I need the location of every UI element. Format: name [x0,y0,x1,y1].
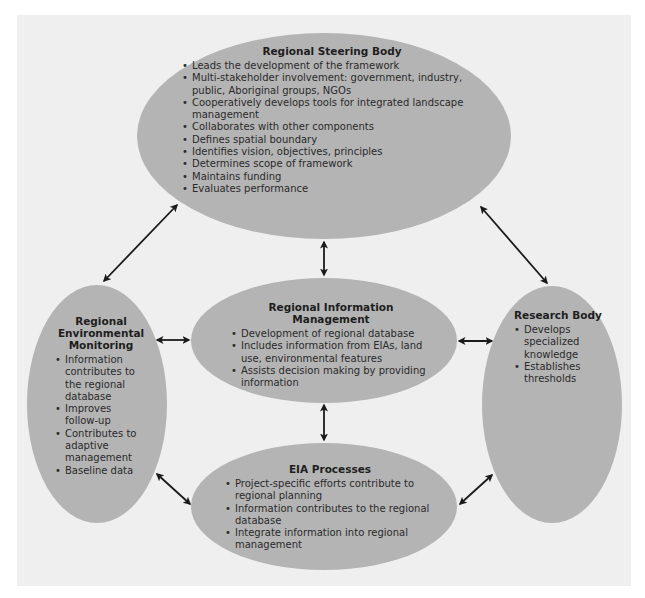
node-bullet-list: Project-specific efforts contribute to r… [225,478,435,552]
regional-steering-body-node: Regional Steering Body Leads the develop… [137,33,511,239]
bullet-item: Maintains funding [182,171,482,183]
bullet-item: Information contributes to the regional … [225,503,435,528]
research-body-node: Research Body Develops specialized knowl… [482,286,622,523]
regional-information-management-node: Regional Information Management Developm… [191,278,457,403]
bullet-item: Cooperatively develops tools for integra… [182,97,482,122]
bullet-item: Determines scope of framework [182,158,482,170]
node-title: Regional Steering Body [182,45,482,57]
bullet-item: Baseline data [55,465,147,477]
bullet-item: Identifies vision, objectives, principle… [182,146,482,158]
bullet-item: Assists decision making by providing inf… [231,365,431,390]
bullet-item: Integrate information into regional mana… [225,527,435,552]
bullet-item: Contributes to adaptive management [55,428,147,465]
bullet-item: Improves follow-up [55,403,147,428]
node-bullet-list: Development of regional database Include… [231,328,431,389]
regional-environmental-monitoring-node: Regional Environmental Monitoring Inform… [27,285,167,523]
node-bullet-list: Leads the development of the framework M… [182,60,482,195]
bullet-item: Information contributes to the regional … [55,354,147,403]
bullet-item: Development of regional database [231,328,431,340]
bullet-item: Multi-stakeholder involvement: governmen… [182,72,482,97]
bullet-item: Establishes thresholds [514,361,614,386]
bullet-item: Evaluates performance [182,183,482,195]
node-title: EIA Processes [225,463,435,475]
node-bullet-list: Develops specialized knowledge Establish… [514,324,614,385]
bullet-item: Defines spatial boundary [182,134,482,146]
bullet-item: Collaborates with other components [182,121,482,133]
bullet-item: Develops specialized knowledge [514,324,614,361]
bullet-item: Leads the development of the framework [182,60,482,72]
bullet-item: Includes information from EIAs, land use… [231,340,431,365]
eia-processes-node: EIA Processes Project-specific efforts c… [191,443,457,570]
node-title: Regional Information Management [231,301,431,325]
node-title: Regional Environmental Monitoring [55,315,147,351]
bullet-item: Project-specific efforts contribute to r… [225,478,435,503]
node-bullet-list: Information contributes to the regional … [55,354,147,477]
node-title: Research Body [514,309,614,321]
